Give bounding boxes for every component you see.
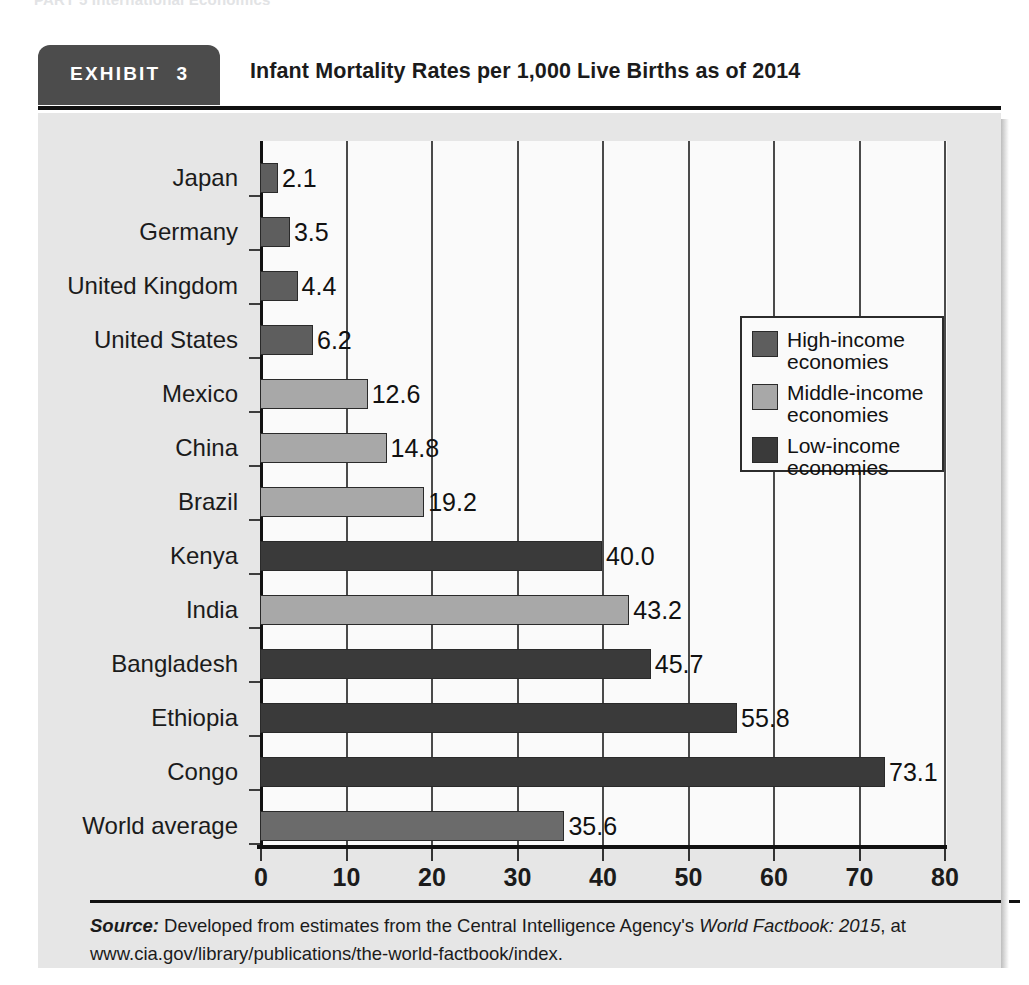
bar-kenya	[260, 541, 602, 571]
x-tick-50	[688, 849, 690, 861]
source-italic-title: World Factbook: 2015	[699, 915, 880, 936]
exhibit-badge: EXHIBIT 3	[38, 45, 220, 105]
legend-swatch-low	[752, 437, 778, 463]
chart-row: China	[38, 421, 260, 475]
category-label-world-average: World average	[82, 799, 238, 853]
bar-value-kenya: 40.0	[606, 541, 655, 571]
bar-brazil	[260, 487, 424, 517]
chart-row: Kenya	[38, 529, 260, 583]
category-label-united-kingdom: United Kingdom	[67, 259, 238, 313]
legend-label-line2: economies	[787, 351, 905, 373]
x-tick-30	[517, 849, 519, 861]
bar-world-average	[260, 811, 564, 841]
source-label: Source:	[90, 915, 159, 936]
chart-row: Bangladesh	[38, 637, 260, 691]
category-label-bangladesh: Bangladesh	[111, 637, 238, 691]
bar-mexico	[260, 379, 368, 409]
bar-value-japan: 2.1	[282, 163, 317, 193]
x-tick-label-20: 20	[418, 863, 446, 892]
bar-value-india: 43.2	[633, 595, 682, 625]
chart-row: World average	[38, 799, 260, 853]
bar-value-brazil: 19.2	[428, 487, 477, 517]
exhibit-badge-number: 3	[176, 63, 188, 85]
x-tick-label-40: 40	[589, 863, 617, 892]
chart-row: Japan	[38, 151, 260, 205]
gridline-30	[517, 141, 519, 845]
exhibit-badge-label: EXHIBIT	[70, 63, 160, 85]
chart-row: Mexico	[38, 367, 260, 421]
category-label-brazil: Brazil	[178, 475, 238, 529]
bar-congo	[260, 757, 885, 787]
y-tick	[249, 519, 260, 521]
x-tick-0	[260, 849, 262, 861]
y-tick	[249, 303, 260, 305]
category-label-india: India	[186, 583, 238, 637]
panel-drop-shadow	[1001, 119, 1009, 968]
y-tick	[249, 789, 260, 791]
source-divider	[90, 900, 1020, 903]
chart-legend: High-incomeeconomiesMiddle-incomeeconomi…	[740, 316, 944, 472]
running-head: PART 5 International Economics	[34, 0, 271, 8]
gridline-60	[773, 141, 775, 845]
y-tick	[249, 249, 260, 251]
source-text-before: Developed from estimates from the Centra…	[159, 915, 699, 936]
category-label-kenya: Kenya	[170, 529, 238, 583]
x-tick-label-30: 30	[504, 863, 532, 892]
legend-label-line2: economies	[787, 404, 924, 426]
category-label-congo: Congo	[167, 745, 238, 799]
bar-value-germany: 3.5	[294, 217, 329, 247]
exhibit-divider	[38, 106, 1001, 110]
x-tick-label-50: 50	[675, 863, 703, 892]
x-tick-80	[944, 849, 946, 861]
bar-value-china: 14.8	[391, 433, 440, 463]
legend-label-middle: Middle-incomeeconomies	[787, 382, 924, 426]
legend-label-line1: High-income	[787, 329, 905, 351]
exhibit-header: EXHIBIT 3 Infant Mortality Rates per 1,0…	[38, 45, 1001, 113]
source-note: Source: Developed from estimates from th…	[90, 912, 1024, 968]
chart-row: United Kingdom	[38, 259, 260, 313]
bar-india	[260, 595, 629, 625]
x-tick-70	[859, 849, 861, 861]
legend-label-line2: economies	[787, 457, 900, 479]
y-tick	[249, 357, 260, 359]
chart-row: India	[38, 583, 260, 637]
y-tick	[249, 627, 260, 629]
bar-japan	[260, 163, 278, 193]
y-tick	[249, 195, 260, 197]
bar-value-united-states: 6.2	[317, 325, 352, 355]
legend-item-high: High-incomeeconomies	[752, 329, 942, 373]
gridline-50	[688, 141, 690, 845]
y-tick	[249, 681, 260, 683]
chart-row: United States	[38, 313, 260, 367]
chart-row: Brazil	[38, 475, 260, 529]
y-tick	[249, 573, 260, 575]
legend-item-low: Low-incomeeconomies	[752, 435, 942, 479]
y-tick	[249, 735, 260, 737]
bar-china	[260, 433, 387, 463]
gridline-80	[944, 141, 946, 845]
bar-value-mexico: 12.6	[372, 379, 421, 409]
bar-united-kingdom	[260, 271, 298, 301]
exhibit-title: Infant Mortality Rates per 1,000 Live Bi…	[250, 59, 800, 84]
category-label-united-states: United States	[94, 313, 238, 367]
legend-swatch-high	[752, 331, 778, 357]
legend-label-line1: Middle-income	[787, 382, 924, 404]
bar-united-states	[260, 325, 313, 355]
legend-label-low: Low-incomeeconomies	[787, 435, 900, 479]
gridline-70	[859, 141, 861, 845]
x-tick-label-80: 80	[931, 863, 959, 892]
x-tick-label-60: 60	[760, 863, 788, 892]
x-tick-40	[602, 849, 604, 861]
category-label-mexico: Mexico	[162, 367, 238, 421]
x-tick-label-10: 10	[333, 863, 361, 892]
chart-row: Ethiopia	[38, 691, 260, 745]
chart-panel: Japan2.1Germany3.5United Kingdom4.4Unite…	[38, 113, 1001, 968]
bar-germany	[260, 217, 290, 247]
y-tick	[249, 465, 260, 467]
gridline-40	[602, 141, 604, 845]
bar-value-congo: 73.1	[889, 757, 938, 787]
legend-item-middle: Middle-incomeeconomies	[752, 382, 942, 426]
x-tick-label-0: 0	[254, 863, 268, 892]
bar-value-united-kingdom: 4.4	[302, 271, 337, 301]
bar-value-ethiopia: 55.8	[741, 703, 790, 733]
